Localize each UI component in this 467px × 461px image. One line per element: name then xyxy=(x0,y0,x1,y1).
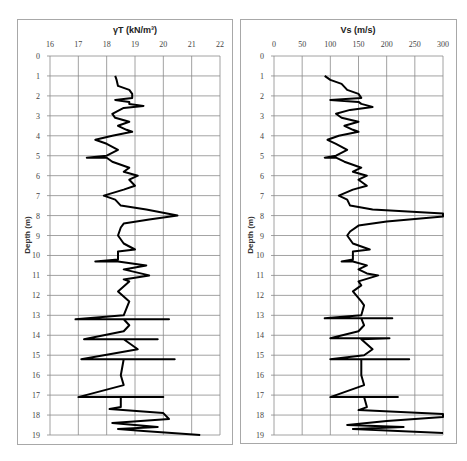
y-tick-label: 19 xyxy=(32,431,40,440)
y-tick-label: 14 xyxy=(256,331,264,340)
vs-chart: 0501001502002503000123456789101112131415… xyxy=(246,25,449,440)
y-tick-label: 13 xyxy=(32,311,40,320)
y-tick-label: 10 xyxy=(32,251,40,260)
y-tick-label: 17 xyxy=(32,391,40,400)
y-tick-label: 7 xyxy=(36,192,40,201)
gridlines xyxy=(47,56,220,435)
y-tick-label: 15 xyxy=(256,351,264,360)
y-tick-label: 9 xyxy=(260,232,264,241)
y-tick-label: 6 xyxy=(260,172,264,181)
y-tick-label: 14 xyxy=(32,331,40,340)
y-tick-label: 16 xyxy=(32,371,40,380)
gamma-chart: 1617181920212201234567891011121314151617… xyxy=(23,25,224,440)
y-tick-label: 2 xyxy=(260,92,264,101)
x-tick-label: 150 xyxy=(353,40,365,49)
x-tick-label: 22 xyxy=(216,40,224,49)
x-tick-label: 0 xyxy=(272,40,276,49)
y-tick-label: 0 xyxy=(36,52,40,61)
y-tick-label: 7 xyxy=(260,192,264,201)
x-tick-label: 200 xyxy=(381,40,393,49)
y-tick-label: 8 xyxy=(36,212,40,221)
x-tick-label: 20 xyxy=(159,40,167,49)
y-tick-label: 8 xyxy=(260,212,264,221)
x-tick-label: 100 xyxy=(324,40,336,49)
x-tick-label: 300 xyxy=(437,40,449,49)
y-tick-label: 4 xyxy=(260,132,264,141)
y-tick-label: 18 xyxy=(256,411,264,420)
y-tick-label: 1 xyxy=(36,72,40,81)
y-tick-label: 3 xyxy=(36,112,40,121)
data-series-line xyxy=(325,76,443,433)
x-tick-label: 19 xyxy=(131,40,139,49)
y-axis-label: Depth (m) xyxy=(23,216,32,254)
y-tick-label: 1 xyxy=(260,72,264,81)
y-tick-label: 6 xyxy=(36,172,40,181)
y-tick-label: 0 xyxy=(260,52,264,61)
y-tick-label: 9 xyxy=(36,232,40,241)
x-tick-label: 21 xyxy=(188,40,196,49)
y-tick-label: 2 xyxy=(36,92,40,101)
y-tick-label: 12 xyxy=(32,291,40,300)
y-tick-label: 11 xyxy=(256,271,264,280)
y-tick-label: 18 xyxy=(32,411,40,420)
y-tick-label: 5 xyxy=(36,152,40,161)
y-tick-label: 17 xyxy=(256,391,264,400)
y-tick-label: 5 xyxy=(260,152,264,161)
y-tick-label: 15 xyxy=(32,351,40,360)
x-tick-label: 18 xyxy=(103,40,111,49)
x-tick-label: 50 xyxy=(298,40,306,49)
chart-title: γT (kN/m³) xyxy=(113,25,157,35)
chart-title: Vs (m/s) xyxy=(340,25,375,35)
y-tick-label: 16 xyxy=(256,371,264,380)
y-axis-label: Depth (m) xyxy=(246,216,255,254)
y-tick-label: 11 xyxy=(32,271,40,280)
x-tick-label: 16 xyxy=(46,40,54,49)
y-tick-label: 4 xyxy=(36,132,40,141)
y-tick-label: 13 xyxy=(256,311,264,320)
y-tick-label: 12 xyxy=(256,291,264,300)
y-tick-label: 3 xyxy=(260,112,264,121)
y-tick-label: 10 xyxy=(256,251,264,260)
y-tick-label: 19 xyxy=(256,431,264,440)
x-tick-label: 250 xyxy=(409,40,421,49)
chart-canvas: 1617181920212201234567891011121314151617… xyxy=(0,0,467,461)
x-tick-label: 17 xyxy=(74,40,82,49)
